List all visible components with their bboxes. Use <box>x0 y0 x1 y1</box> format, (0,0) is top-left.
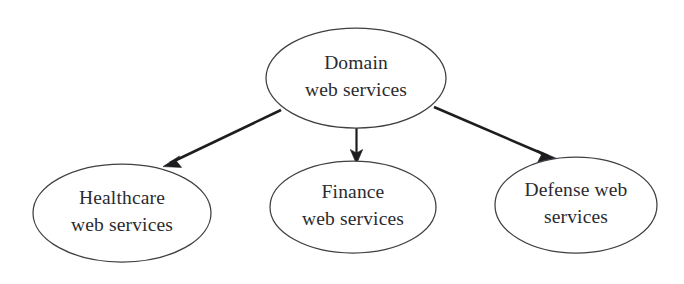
diagram-svg: Domain web services Healthcare web servi… <box>0 0 684 284</box>
node-finance-web-services-shape <box>270 161 436 253</box>
node-defense-web-services[interactable]: Defense web services <box>495 157 657 253</box>
node-defense-web-services-label-line2: services <box>544 206 608 227</box>
node-defense-web-services-label-line1: Defense web <box>525 179 628 200</box>
node-domain-web-services-shape <box>266 28 446 128</box>
node-healthcare-web-services-label-line2: web services <box>71 214 173 235</box>
node-healthcare-web-services-label-line1: Healthcare <box>79 187 165 208</box>
edge-domain-healthcare[interactable] <box>163 110 281 167</box>
edge-domain-defense[interactable] <box>434 107 556 162</box>
node-healthcare-web-services[interactable]: Healthcare web services <box>33 164 211 262</box>
node-finance-web-services-label-line1: Finance <box>322 181 385 202</box>
node-healthcare-web-services-shape <box>33 164 211 262</box>
node-finance-web-services-label-line2: web services <box>302 208 404 229</box>
node-defense-web-services-shape <box>495 157 657 253</box>
node-domain-web-services-label-line1: Domain <box>324 52 388 73</box>
node-group: Domain web services Healthcare web servi… <box>33 28 657 262</box>
edge-domain-healthcare-arrowhead <box>163 156 182 168</box>
diagram-canvas: Domain web services Healthcare web servi… <box>0 0 684 284</box>
node-domain-web-services-label-line2: web services <box>305 79 407 100</box>
edge-domain-defense-line <box>434 107 548 156</box>
edge-domain-healthcare-line <box>170 110 281 163</box>
node-domain-web-services[interactable]: Domain web services <box>266 28 446 128</box>
node-finance-web-services[interactable]: Finance web services <box>270 161 436 253</box>
edge-domain-finance[interactable] <box>350 127 362 164</box>
